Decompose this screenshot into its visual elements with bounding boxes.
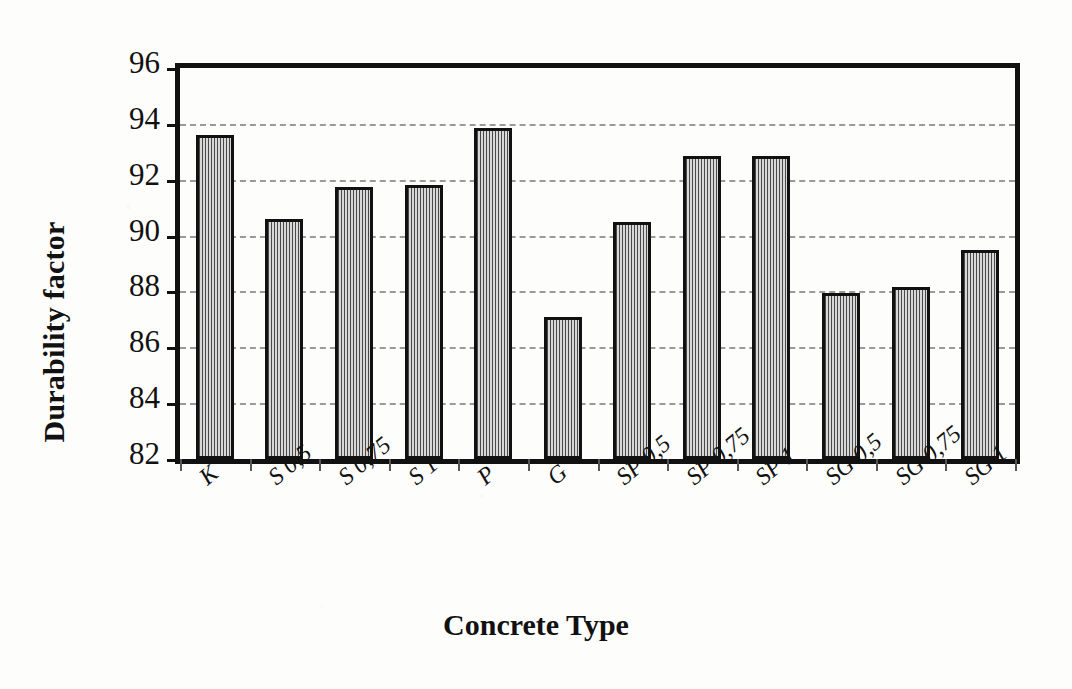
- bar: [822, 293, 860, 459]
- gridline: [180, 291, 1015, 293]
- y-axis-tick-label: 92: [40, 159, 160, 190]
- y-axis-tick: [167, 403, 180, 406]
- y-axis-tick: [167, 459, 180, 462]
- bar: [335, 187, 373, 459]
- bar: [474, 128, 512, 459]
- x-axis-title: Concrete Type: [0, 608, 1072, 642]
- y-axis-tick-label: 86: [40, 326, 160, 357]
- gridline: [180, 347, 1015, 349]
- y-axis-tick: [167, 68, 180, 71]
- gridline: [180, 180, 1015, 182]
- y-axis-tick: [167, 291, 180, 294]
- gridline: [180, 403, 1015, 405]
- y-axis-tick-label: 94: [40, 103, 160, 134]
- plot-area: [175, 63, 1020, 464]
- y-axis-tick-label: 90: [40, 214, 160, 245]
- x-axis-tick-labels: KS 0,5S 0,75S 1PGSP 0,5SP 0,75SP 1SG 0,5…: [175, 470, 1020, 590]
- y-axis-tick: [167, 236, 180, 239]
- bar: [196, 135, 234, 459]
- bar: [405, 185, 443, 459]
- plot-inner: [180, 68, 1015, 459]
- bar: [544, 317, 582, 459]
- x-axis-tick-label: K: [194, 460, 224, 491]
- y-axis-tick-label: 96: [40, 47, 160, 78]
- bar: [961, 250, 999, 459]
- gridline: [180, 124, 1015, 126]
- bar: [683, 156, 721, 459]
- y-axis-tick-label: 84: [40, 382, 160, 413]
- y-axis-tick-labels: 9694929088868482: [30, 63, 160, 464]
- y-axis-tick-label: 82: [40, 438, 160, 469]
- bar: [752, 156, 790, 459]
- y-axis-tick-label: 88: [40, 270, 160, 301]
- y-axis-tick: [167, 347, 180, 350]
- y-axis-tick: [167, 180, 180, 183]
- bar-chart-figure: Durability factor 9694929088868482 KS 0,…: [0, 0, 1072, 689]
- gridline: [180, 236, 1015, 238]
- bar: [613, 222, 651, 459]
- x-axis-tick-label: P: [472, 461, 501, 491]
- bar: [892, 287, 930, 459]
- bar: [265, 219, 303, 459]
- y-axis-tick: [167, 124, 180, 127]
